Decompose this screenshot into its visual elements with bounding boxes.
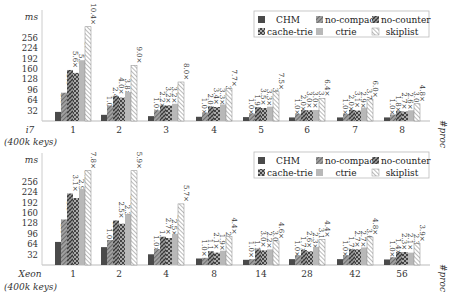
- x-axis-label: #proc: [438, 264, 448, 292]
- machine-label: Xeon: [18, 269, 42, 279]
- bar-CHM: [55, 112, 61, 121]
- bar-CHM: [289, 117, 295, 121]
- bar-skiplist: [226, 89, 232, 122]
- bar-no-compact: [61, 93, 67, 121]
- bar-group-1: 1.0×3.1×5.6×5.3×6.7×10.4×1: [55, 3, 97, 135]
- y-tick-label: 160: [22, 64, 38, 74]
- benchmark-bar-charts: ms326496128160192224256i7(400k keys)#pro…: [0, 0, 468, 298]
- bar-group-42: 1.0×1.7×2.7×2.7×3.0×4.8×42: [337, 218, 379, 279]
- bar-group-2: 1.0×1.4×2.5×2.3×2.8×5.9×2: [101, 152, 143, 279]
- bar-no-counter: [113, 220, 119, 265]
- bar-skiplist: [131, 65, 137, 121]
- bar-cache-trie: [307, 110, 313, 121]
- bar-no-counter: [255, 107, 261, 121]
- bar-cache-trie: [355, 111, 361, 121]
- legend-swatch-icon: [372, 16, 379, 23]
- bar-no-compact: [390, 257, 396, 265]
- x-tick-label: 1: [70, 269, 76, 279]
- y-tick-label: 256: [22, 177, 38, 187]
- y-tick-label: 32: [27, 250, 38, 260]
- x-tick-label: 42: [349, 269, 360, 279]
- bar-skiplist: [273, 92, 279, 121]
- bar-ctrie: [125, 214, 131, 265]
- legend-label: skiplist: [386, 168, 419, 178]
- bar-no-counter: [255, 249, 261, 265]
- bar-no-counter: [301, 250, 307, 265]
- bar-group-5: 1.0×1.9×3.5×3.3×3.7×7.5×5: [243, 73, 285, 135]
- speedup-annotation: 4.8×: [418, 85, 426, 102]
- x-tick-label: 28: [301, 269, 313, 279]
- y-tick-label: 128: [22, 74, 38, 84]
- bar-no-counter: [396, 111, 402, 121]
- chart-container: ms326496128160192224256i7(400k keys)#pro…: [0, 0, 468, 298]
- bar-skiplist: [319, 98, 325, 121]
- legend-swatch-icon: [258, 16, 265, 23]
- legend-swatch-icon: [258, 28, 265, 35]
- legend-label: no-compact: [325, 156, 378, 166]
- bar-no-compact: [390, 115, 396, 122]
- bar-cache-trie: [166, 105, 172, 121]
- bar-ctrie: [220, 104, 226, 121]
- bar-no-counter: [208, 251, 214, 265]
- legend-swatch-icon: [316, 157, 323, 164]
- speedup-annotation: 6.4×: [323, 79, 331, 96]
- x-tick-label: 6: [304, 125, 310, 135]
- bar-group-4: 1.0×1.5×2.7×2.5×2.9×5.7×4: [148, 185, 190, 279]
- bar-no-counter: [160, 237, 166, 265]
- legend-swatch-icon: [258, 157, 265, 164]
- y-axis-label: ms: [25, 12, 39, 22]
- legend-label: CHM: [276, 15, 300, 25]
- legend-swatch-icon: [258, 169, 265, 176]
- bar-skiplist: [85, 171, 91, 265]
- bar-no-counter: [301, 110, 307, 121]
- bar-ctrie: [79, 60, 85, 121]
- bar-CHM: [337, 117, 343, 121]
- legend-swatch-icon: [372, 169, 379, 176]
- bar-group-4: 1.0×2.0×3.4×3.3×3.9×7.7×4: [196, 70, 238, 136]
- bar-cache-trie: [119, 224, 125, 265]
- bar-no-counter: [396, 252, 402, 265]
- bar-skiplist: [367, 100, 373, 121]
- speedup-annotation: 5.9×: [135, 152, 143, 169]
- bar-no-compact: [202, 113, 208, 121]
- bar-no-counter: [349, 110, 355, 121]
- x-tick-label: 8: [211, 269, 217, 279]
- legend-label: no-compact: [325, 15, 378, 25]
- x-tick-label: 8: [399, 125, 405, 135]
- bar-cache-trie: [73, 73, 79, 121]
- speedup-annotation: 7.5×: [277, 73, 285, 90]
- speedup-annotation: 7.7×: [230, 70, 238, 87]
- legend-label: no-counter: [381, 156, 431, 166]
- speedup-annotation: 5.7×: [182, 185, 190, 202]
- bar-cache-trie: [355, 249, 361, 265]
- legend-swatch-icon: [372, 157, 379, 164]
- bar-CHM: [196, 259, 202, 266]
- bar-CHM: [148, 116, 154, 121]
- bar-skiplist: [414, 244, 420, 265]
- legend-item-no-counter: no-counter: [372, 156, 431, 166]
- bar-no-compact: [249, 259, 255, 265]
- bar-ctrie: [125, 92, 131, 121]
- bar-no-compact: [295, 114, 301, 121]
- bar-cache-trie: [166, 238, 172, 265]
- bar-ctrie: [408, 253, 414, 265]
- bar-no-compact: [295, 255, 301, 265]
- bar-cache-trie: [214, 107, 220, 121]
- legend-item-no-compact: no-compact: [316, 15, 378, 25]
- speedup-annotation: 9.0×: [135, 46, 143, 63]
- bar-CHM: [148, 254, 154, 265]
- bar-CHM: [289, 259, 295, 265]
- bar-no-compact: [154, 249, 160, 265]
- legend: CHMno-compactno-countercache-triectriesk…: [254, 11, 431, 37]
- y-tick-label: 256: [22, 33, 38, 43]
- bar-cache-trie: [261, 250, 267, 265]
- bar-cache-trie: [402, 252, 408, 265]
- x-tick-label: 4: [163, 269, 169, 279]
- speedup-annotation: 6.0×: [371, 81, 379, 98]
- bar-cache-trie: [214, 253, 220, 265]
- x-tick-label: 4: [211, 125, 217, 135]
- bar-skiplist: [178, 82, 184, 121]
- legend-swatch-icon: [316, 169, 323, 176]
- bar-skiplist: [414, 104, 420, 121]
- legend-label: skiplist: [386, 27, 419, 37]
